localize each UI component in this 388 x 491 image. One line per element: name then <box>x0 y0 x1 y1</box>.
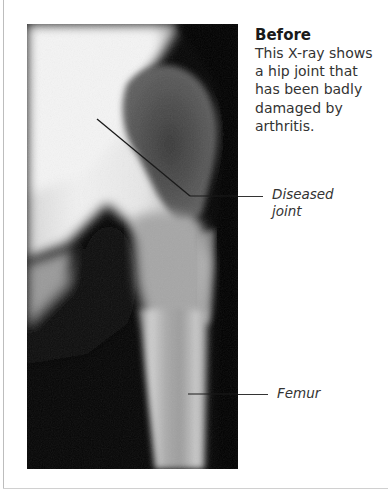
leader-line-diseased-joint <box>238 196 263 197</box>
label-diseased-joint-line1: Diseased <box>272 186 334 203</box>
figure-caption: Before This X-ray shows a hip joint that… <box>255 26 385 135</box>
caption-title: Before <box>255 26 385 44</box>
caption-body: This X-ray shows a hip joint that has be… <box>255 44 385 135</box>
frame-border-left <box>3 0 4 489</box>
leader-line-femur <box>238 394 268 395</box>
label-diseased-joint: Diseased joint <box>272 186 334 220</box>
frame-border-bottom <box>3 488 388 489</box>
label-femur-text: Femur <box>277 385 320 402</box>
xray-image <box>27 24 238 469</box>
label-diseased-joint-line2: joint <box>272 203 334 220</box>
label-femur: Femur <box>277 385 320 402</box>
